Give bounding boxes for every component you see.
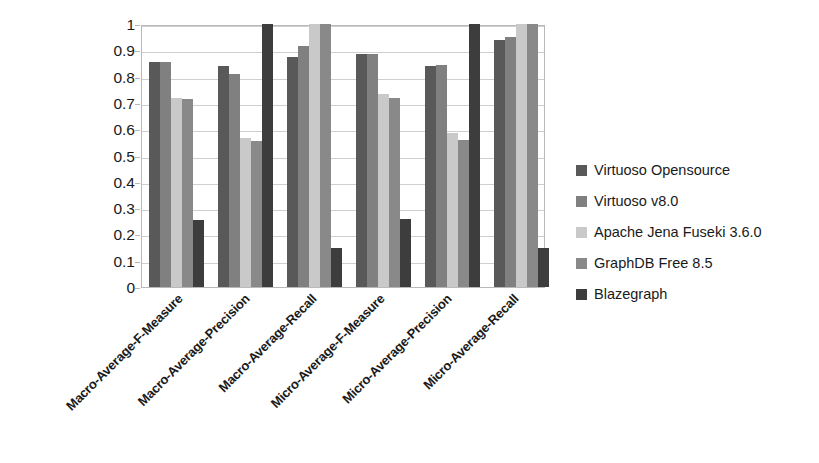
bar[interactable] xyxy=(538,248,549,287)
y-tick-label: 0.4 xyxy=(95,175,135,191)
x-axis-label: Micro-Average-Recall xyxy=(370,291,522,443)
bar-group xyxy=(418,26,487,287)
bar[interactable] xyxy=(516,24,527,287)
legend-label: Virtuoso Opensource xyxy=(594,163,730,178)
bar-group-pad xyxy=(342,286,349,287)
bar[interactable] xyxy=(494,40,505,287)
bar-group xyxy=(280,26,349,287)
y-tick-label: 0 xyxy=(95,280,135,296)
bar[interactable] xyxy=(182,99,193,287)
bar[interactable] xyxy=(149,62,160,287)
legend-item[interactable]: Blazegraph xyxy=(576,279,816,310)
bar[interactable] xyxy=(320,24,331,287)
x-axis-label: Macro-Average-Precision xyxy=(101,291,253,443)
y-tick-mark xyxy=(135,235,140,236)
bar-groups xyxy=(142,26,544,287)
bar[interactable] xyxy=(160,62,171,287)
bar-group xyxy=(487,26,556,287)
y-axis: 00.10.20.30.40.50.60.70.80.91 xyxy=(95,25,135,288)
bar-group-pad xyxy=(142,286,149,287)
bar-group-pad xyxy=(204,286,211,287)
y-tick-mark xyxy=(135,51,140,52)
bar[interactable] xyxy=(171,98,182,287)
bar[interactable] xyxy=(251,141,262,287)
bar[interactable] xyxy=(367,54,378,287)
x-axis-label: Macro-Average-F-Measure xyxy=(33,291,185,443)
bar[interactable] xyxy=(425,66,436,287)
y-tick-mark xyxy=(135,288,140,289)
y-tick-label: 0.1 xyxy=(95,254,135,270)
bar[interactable] xyxy=(389,98,400,287)
bar-chart: 00.10.20.30.40.50.60.70.80.91 Macro-Aver… xyxy=(0,0,819,463)
x-axis-label: Macro-Average-Recall xyxy=(168,291,320,443)
legend-item[interactable]: GraphDB Free 8.5 xyxy=(576,248,816,279)
bar[interactable] xyxy=(287,57,298,287)
bar[interactable] xyxy=(229,74,240,287)
bar-group-pad xyxy=(349,286,356,287)
legend-label: Apache Jena Fuseki 3.6.0 xyxy=(594,225,762,240)
legend-swatch-icon xyxy=(576,258,587,269)
legend-item[interactable]: Virtuoso Opensource xyxy=(576,155,816,186)
bar[interactable] xyxy=(240,138,251,287)
y-tick-label: 0.8 xyxy=(95,70,135,86)
y-tick-mark xyxy=(135,104,140,105)
bar[interactable] xyxy=(505,37,516,287)
y-tick-mark xyxy=(135,209,140,210)
legend-item[interactable]: Apache Jena Fuseki 3.6.0 xyxy=(576,217,816,248)
y-tick-label: 0.5 xyxy=(95,149,135,165)
legend-swatch-icon xyxy=(576,227,587,238)
bar-group-pad xyxy=(211,286,218,287)
bar-group xyxy=(142,26,211,287)
y-tick-label: 0.3 xyxy=(95,201,135,217)
bar-group-pad xyxy=(273,286,280,287)
bar[interactable] xyxy=(436,65,447,287)
bar-group-pad xyxy=(549,286,556,287)
legend-swatch-icon xyxy=(576,289,587,300)
legend-item[interactable]: Virtuoso v8.0 xyxy=(576,186,816,217)
y-tick-label: 0.2 xyxy=(95,228,135,244)
y-tick-mark xyxy=(135,25,140,26)
bar-group-pad xyxy=(411,286,418,287)
bar[interactable] xyxy=(458,140,469,287)
bar[interactable] xyxy=(378,94,389,287)
legend-swatch-icon xyxy=(576,165,587,176)
plot-area xyxy=(141,25,545,288)
x-axis-label: Micro-Average-Precision xyxy=(303,291,455,443)
x-axis-label: Micro-Average-F-Measure xyxy=(235,291,387,443)
legend-label: Blazegraph xyxy=(594,287,667,302)
bar-group xyxy=(211,26,280,287)
y-tick-label: 0.7 xyxy=(95,96,135,112)
bar[interactable] xyxy=(309,24,320,287)
bar-group-pad xyxy=(280,286,287,287)
bar[interactable] xyxy=(447,133,458,287)
bar-group-pad xyxy=(480,286,487,287)
y-tick-mark xyxy=(135,262,140,263)
y-tick-mark xyxy=(135,157,140,158)
bar-group-pad xyxy=(418,286,425,287)
y-tick-label: 0.6 xyxy=(95,122,135,138)
bar[interactable] xyxy=(527,24,538,287)
bar[interactable] xyxy=(298,46,309,287)
bar[interactable] xyxy=(400,219,411,287)
y-tick-label: 1 xyxy=(95,17,135,33)
y-tick-mark xyxy=(135,130,140,131)
legend-swatch-icon xyxy=(576,196,587,207)
x-axis-labels: Macro-Average-F-MeasureMacro-Average-Pre… xyxy=(141,288,545,438)
bar[interactable] xyxy=(331,248,342,287)
bar[interactable] xyxy=(193,220,204,287)
bar[interactable] xyxy=(218,66,229,287)
legend-label: Virtuoso v8.0 xyxy=(594,194,678,209)
y-tick-mark xyxy=(135,183,140,184)
chart-legend: Virtuoso OpensourceVirtuoso v8.0Apache J… xyxy=(576,155,816,310)
y-tick-label: 0.9 xyxy=(95,44,135,60)
bar[interactable] xyxy=(356,54,367,287)
bar-group-pad xyxy=(487,286,494,287)
bar[interactable] xyxy=(469,24,480,287)
bar[interactable] xyxy=(262,24,273,287)
legend-label: GraphDB Free 8.5 xyxy=(594,256,712,271)
bar-group xyxy=(349,26,418,287)
y-tick-mark xyxy=(135,78,140,79)
